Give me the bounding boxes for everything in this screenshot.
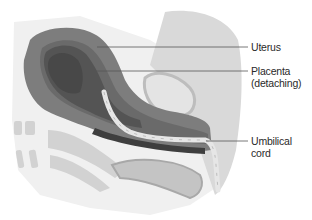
umbilical-cord-label: Umbilical cord	[251, 135, 292, 159]
placenta-label-line-2: (detaching)	[251, 77, 301, 89]
umbilical-cord-label-line-1: Umbilical	[251, 135, 292, 147]
anatomy-illustration	[0, 0, 312, 220]
placenta-label: Placenta (detaching)	[251, 65, 301, 89]
uterus-label: Uterus	[251, 41, 281, 53]
umbilical-cord-label-line-2: cord	[251, 147, 292, 159]
placenta-label-line-1: Placenta	[251, 65, 301, 77]
uterus-label-text: Uterus	[251, 41, 281, 53]
